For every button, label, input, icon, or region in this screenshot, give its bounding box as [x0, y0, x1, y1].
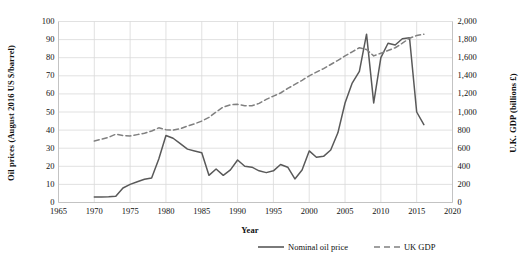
- plot-area: [0, 0, 525, 259]
- series-line-uk-gdp: [94, 34, 424, 141]
- chart-legend: Nominal oil price UK GDP: [258, 240, 435, 254]
- data-series: [94, 34, 424, 197]
- legend-swatch-dashed-icon: [374, 243, 400, 251]
- series-line-nominal-oil-price: [94, 34, 424, 197]
- legend-label-oil: Nominal oil price: [288, 242, 348, 252]
- legend-swatch-solid-icon: [258, 243, 284, 251]
- chart-container: Oil prices (August 2016 US $/barrel) U.K…: [0, 0, 525, 259]
- gridlines: [59, 22, 453, 203]
- legend-label-gdp: UK GDP: [404, 242, 435, 252]
- legend-item-nominal-oil-price: Nominal oil price: [258, 242, 348, 252]
- legend-item-uk-gdp: UK GDP: [374, 242, 435, 252]
